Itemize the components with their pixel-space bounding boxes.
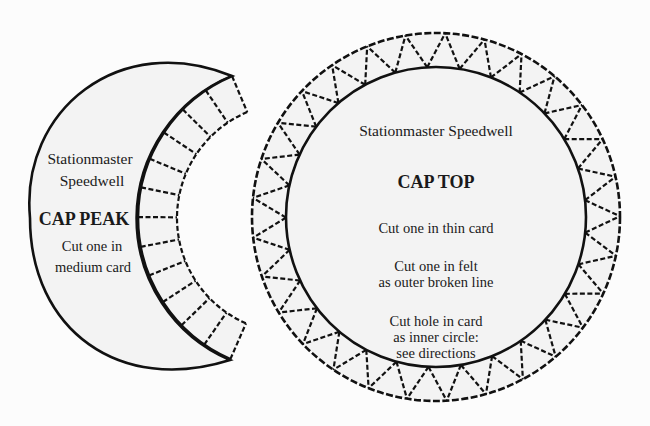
cap-top-title: CAP TOP [398, 172, 475, 192]
cap-peak-piece: Stationmaster Speedwell CAP PEAK Cut one… [29, 63, 247, 370]
cap-template-diagram: Stationmaster Speedwell CAP PEAK Cut one… [0, 0, 650, 426]
cap-top-instruction3-line1: Cut hole in card [389, 313, 483, 329]
cap-top-piece: Stationmaster Speedwell CAP TOP Cut one … [252, 33, 620, 401]
cap-top-instruction2-line1: Cut one in felt [394, 258, 477, 274]
cap-peak-title: CAP PEAK [39, 209, 130, 229]
cap-peak-owner-line2: Speedwell [60, 172, 125, 189]
cap-peak-owner-line1: Stationmaster [47, 150, 133, 167]
cap-peak-instruction-line2: medium card [55, 259, 132, 275]
cap-top-owner: Stationmaster Speedwell [359, 122, 513, 139]
cap-top-instruction1: Cut one in thin card [378, 220, 494, 236]
cap-peak-instruction-line1: Cut one in [62, 238, 123, 254]
cap-top-instruction2-line2: as outer broken line [379, 274, 494, 290]
cap-top-instruction3-line3: see directions [396, 345, 476, 361]
cap-top-instruction3-line2: as inner circle: [393, 329, 478, 345]
